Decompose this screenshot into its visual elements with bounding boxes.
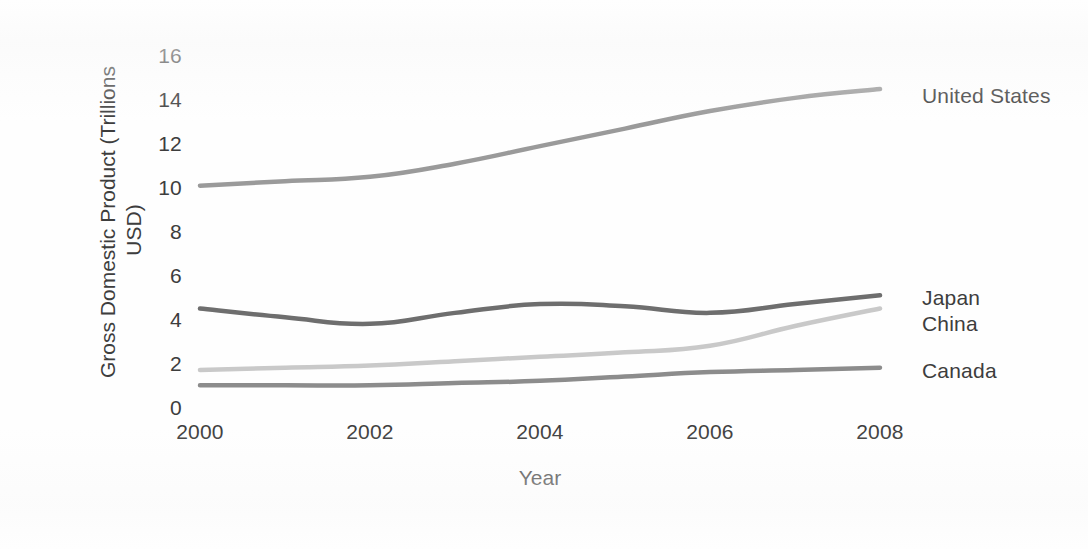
x-axis-title: Year bbox=[448, 466, 632, 490]
series-label-china: China bbox=[922, 312, 978, 336]
x-tick-2008: 2008 bbox=[838, 420, 922, 444]
gdp-line-chart: 16 14 12 10 8 6 4 2 0 Gross Domestic Pro… bbox=[0, 0, 1088, 549]
series-label-united-states: United States bbox=[922, 84, 1051, 108]
series-line-united-states bbox=[200, 89, 880, 186]
series-line-japan bbox=[200, 295, 880, 324]
series-label-canada: Canada bbox=[922, 359, 997, 383]
series-line-canada bbox=[200, 368, 880, 386]
x-tick-2006: 2006 bbox=[668, 420, 752, 444]
series-label-japan: Japan bbox=[922, 286, 980, 310]
x-tick-2004: 2004 bbox=[498, 420, 582, 444]
x-tick-2002: 2002 bbox=[328, 420, 412, 444]
x-tick-2000: 2000 bbox=[158, 420, 242, 444]
